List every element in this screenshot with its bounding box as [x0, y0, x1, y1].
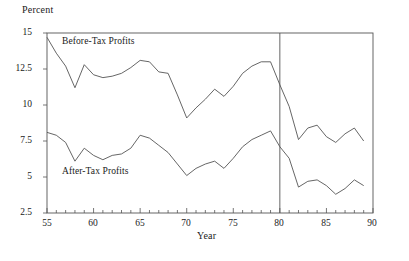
x-tick-label-90: 90 — [360, 218, 384, 228]
x-tick-label-60: 60 — [81, 218, 105, 228]
y-tick-label-5: 5 — [6, 171, 32, 181]
tick-marks — [43, 33, 373, 213]
y-tick-label-10: 10 — [6, 99, 32, 109]
x-tick-label-55: 55 — [35, 218, 59, 228]
after-tax-series-label: After-Tax Profits — [62, 166, 129, 176]
y-tick-label-2-5: 2.5 — [6, 207, 32, 217]
before-tax-profits-line — [47, 37, 364, 142]
y-tick-label-12-5: 12.5 — [6, 63, 32, 73]
axis-lines — [47, 33, 373, 213]
x-axis-title: Year — [197, 230, 216, 241]
y-tick-label-7-5: 7.5 — [6, 135, 32, 145]
x-tick-label-80: 80 — [267, 218, 291, 228]
x-tick-label-70: 70 — [174, 218, 198, 228]
after-tax-profits-line — [47, 131, 364, 194]
x-tick-label-75: 75 — [221, 218, 245, 228]
y-tick-label-15: 15 — [6, 27, 32, 37]
before-tax-series-label: Before-Tax Profits — [62, 36, 135, 46]
x-tick-label-65: 65 — [128, 218, 152, 228]
y-axis-title: Percent — [22, 4, 53, 15]
chart-container: Percent Year Before-Tax Profits After-Ta… — [0, 0, 409, 261]
x-tick-label-85: 85 — [314, 218, 338, 228]
